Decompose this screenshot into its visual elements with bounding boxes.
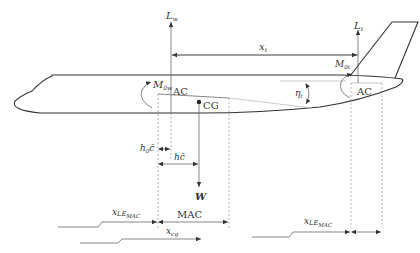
hc-label: hc̄ [174,152,185,162]
x-cg-label: xcg [166,226,178,238]
tail-moment-arc [340,74,352,98]
wing-x-le-mac-label: xLEMAC [112,207,141,219]
wing-lift-label: Lw [165,10,179,22]
tail-x-le-mac-line [252,232,350,237]
cg-dot [197,100,201,104]
wing-moment-arc [141,82,152,108]
tail-arm-label: xt [259,41,268,53]
tail-lift-label: Lt [353,20,364,32]
wing-ac-label: AC [172,86,188,97]
tail-moment-label: M0t [334,59,351,70]
wing-x-le-mac-line [58,222,157,227]
mac-label: MAC [177,209,202,220]
wing-moment-label: M0w [152,79,173,91]
tail-x-le-mac-label: xLEMAC [304,216,333,228]
downwash-reference-line [229,98,312,108]
wing-chord-line [158,94,229,98]
x-cg-line [80,239,201,243]
h0c-label: h0c̄ [140,143,155,154]
cg-label: CG [203,100,219,111]
tail-incidence-label: ηt [295,88,303,99]
aircraft-stability-diagram: Lw xt Lt M0w AC M0t AC ηt CG W h0c̄ hc̄ … [0,0,420,253]
tail-ac-label: AC [356,86,372,97]
weight-label: W [195,191,208,202]
tail-incidence-arc [306,84,309,104]
